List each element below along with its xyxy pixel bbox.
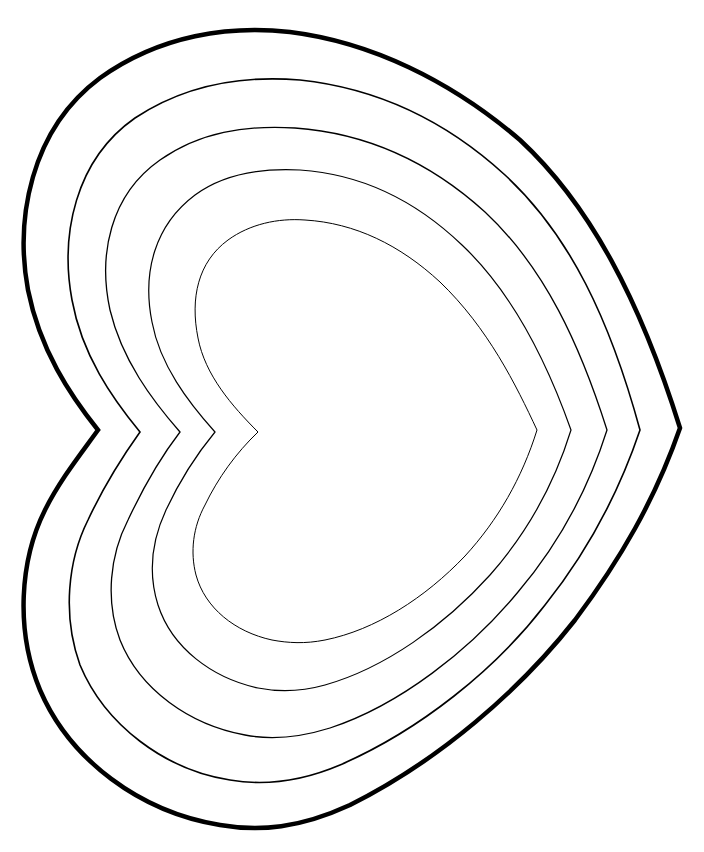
- background: [0, 0, 704, 852]
- nested-hearts-drawing: [0, 0, 704, 852]
